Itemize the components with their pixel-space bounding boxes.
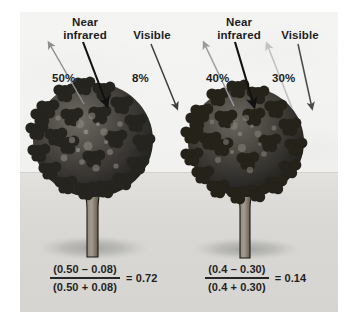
percent-visible-right: 30% — [272, 72, 295, 84]
arrow-visible-incoming-right — [298, 44, 312, 108]
label-near-infrared-right: Near infrared — [202, 16, 276, 41]
illustration-panel: Near infrared Visible 50% 8% Near infrar… — [20, 12, 338, 312]
formula-left-numerator: (0.50 – 0.08) — [50, 262, 120, 277]
formula-left-result: = 0.72 — [126, 272, 158, 284]
tree-highlights2-right — [230, 124, 262, 154]
horizon-line — [20, 172, 338, 173]
fraction-left: (0.50 – 0.08) (0.50 + 0.08) — [50, 262, 120, 294]
ndvi-diagram: Near infrared Visible 50% 8% Near infrar… — [0, 0, 357, 322]
formula-right-numerator: (0.4 – 0.30) — [205, 262, 268, 277]
formula-right: (0.4 – 0.30) (0.4 + 0.30) = 0.14 — [205, 262, 306, 294]
formula-right-result: = 0.14 — [275, 272, 307, 284]
arrow-visible-incoming-left — [151, 44, 177, 108]
label-visible-right: Visible — [272, 29, 328, 42]
label-near-infrared-left: Near infrared — [48, 16, 122, 41]
formula-left: (0.50 – 0.08) (0.50 + 0.08) = 0.72 — [50, 262, 157, 294]
arrow-nir-incoming-left — [83, 42, 107, 105]
fraction-right: (0.4 – 0.30) (0.4 + 0.30) — [205, 262, 269, 294]
label-visible-left: Visible — [124, 29, 180, 42]
formula-left-denominator: (0.50 + 0.08) — [50, 279, 120, 294]
percent-nir-right: 40% — [206, 72, 229, 84]
tree-highlights2-left — [76, 122, 108, 152]
formula-right-denominator: (0.4 + 0.30) — [205, 279, 269, 294]
percent-visible-left: 8% — [132, 72, 149, 84]
tree-highlights-right — [210, 115, 277, 173]
tree-highlights-left — [55, 113, 122, 172]
percent-nir-left: 50% — [52, 72, 75, 84]
arrow-nir-incoming-right — [235, 42, 254, 106]
